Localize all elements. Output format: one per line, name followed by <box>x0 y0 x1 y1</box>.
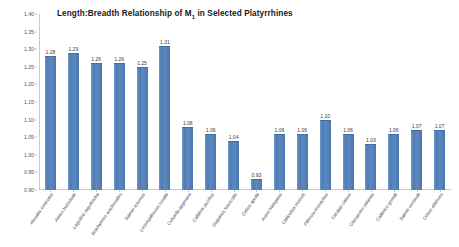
bar-item: 1.26 <box>108 14 131 190</box>
bar-rect <box>228 141 239 190</box>
bar-rect <box>411 130 422 190</box>
bar-value-label: 1.07 <box>412 123 422 129</box>
y-axis-tick-mark <box>34 66 37 67</box>
y-axis-tick-mark <box>34 172 37 173</box>
bar-rect <box>343 134 354 190</box>
bar-rect <box>45 56 56 190</box>
bar-rect <box>205 134 216 190</box>
bar-value-label: 0.93 <box>252 172 262 178</box>
bar-value-label: 1.25 <box>137 60 147 66</box>
y-axis-tick-mark <box>34 102 37 103</box>
y-axis-tick-label: 1.00 <box>24 152 34 158</box>
bar-rect <box>182 127 193 190</box>
y-axis-tick-label: 1.10 <box>24 117 34 123</box>
bar-value-label: 1.29 <box>68 46 78 52</box>
x-axis-tick-label: Alouatta seniculus <box>29 192 54 225</box>
bar-value-label: 1.26 <box>91 56 101 62</box>
bar-rect <box>114 63 125 190</box>
y-axis-tick-label: 1.30 <box>24 46 34 52</box>
bar-rect <box>320 120 331 190</box>
y-axis-tick-mark <box>34 14 37 15</box>
y-axis-tick-label: 1.05 <box>24 134 34 140</box>
bar-value-label: 1.07 <box>435 123 445 129</box>
y-axis-tick-label: 1.35 <box>24 29 34 35</box>
y-axis-tick-mark <box>34 190 37 191</box>
bar-rect <box>388 134 399 190</box>
bar-rect <box>365 144 376 190</box>
bar-rect <box>91 63 102 190</box>
bar-value-label: 1.06 <box>343 127 353 133</box>
y-axis: 1.401.351.301.251.201.151.101.051.000.95… <box>0 14 37 190</box>
bar-item: 1.08 <box>176 14 199 190</box>
bar-item: 1.06 <box>199 14 222 190</box>
bar-item: 1.25 <box>131 14 154 190</box>
bar-item: 1.03 <box>359 14 382 190</box>
y-axis-tick-mark <box>34 31 37 32</box>
y-axis-tick-label: 1.15 <box>24 99 34 105</box>
bars-layer: 1.281.291.261.261.251.311.081.061.040.93… <box>39 14 451 190</box>
y-axis-tick-mark <box>34 49 37 50</box>
bar-item: 1.31 <box>153 14 176 190</box>
y-axis-tick-label: 1.25 <box>24 64 34 70</box>
bar-item: 1.04 <box>222 14 245 190</box>
bar-value-label: 1.28 <box>46 49 56 55</box>
bar-item: 1.06 <box>337 14 360 190</box>
y-axis-tick-label: 0.95 <box>24 169 34 175</box>
bar-rect <box>297 134 308 190</box>
bar-value-label: 1.26 <box>114 56 124 62</box>
x-axis: Alouatta seniculusAteles belzebuthLagoth… <box>39 190 451 247</box>
bar-rect <box>274 134 285 190</box>
y-axis-tick-label: 1.20 <box>24 81 34 87</box>
bar-value-label: 1.06 <box>274 127 284 133</box>
bar-item: 1.07 <box>405 14 428 190</box>
y-axis-tick-mark <box>34 119 37 120</box>
y-axis-tick-mark <box>34 137 37 138</box>
bar-value-label: 1.06 <box>297 127 307 133</box>
bar-item: 1.28 <box>39 14 62 190</box>
bar-item: 1.10 <box>314 14 337 190</box>
x-axis-tick: Cebus albifrons <box>428 190 451 247</box>
bar-chart-figure: Length:Breadth Relationship of M1 in Sel… <box>0 0 459 247</box>
x-axis-tick: Saguinus fuscicollis <box>222 190 245 247</box>
y-axis-tick-mark <box>34 154 37 155</box>
bar-value-label: 1.10 <box>320 113 330 119</box>
bar-item: 1.07 <box>428 14 451 190</box>
bar-item: 1.26 <box>85 14 108 190</box>
y-axis-tick-mark <box>34 84 37 85</box>
bar-item: 1.06 <box>382 14 405 190</box>
bar-rect <box>434 130 445 190</box>
bar-item: 1.06 <box>291 14 314 190</box>
y-axis-tick-label: 0.90 <box>24 187 34 193</box>
bar-item: 1.06 <box>268 14 291 190</box>
y-axis-tick-label: 1.40 <box>24 11 34 17</box>
bar-rect <box>68 53 79 190</box>
bar-value-label: 1.06 <box>206 127 216 133</box>
bar-value-label: 1.06 <box>389 127 399 133</box>
bar-item: 0.93 <box>245 14 268 190</box>
bar-value-label: 1.04 <box>229 134 239 140</box>
bar-rect <box>159 46 170 190</box>
bar-item: 1.29 <box>62 14 85 190</box>
bar-rect <box>137 67 148 190</box>
bar-value-label: 1.31 <box>160 39 170 45</box>
bar-value-label: 1.08 <box>183 120 193 126</box>
bar-value-label: 1.03 <box>366 137 376 143</box>
bar-rect <box>251 179 262 190</box>
